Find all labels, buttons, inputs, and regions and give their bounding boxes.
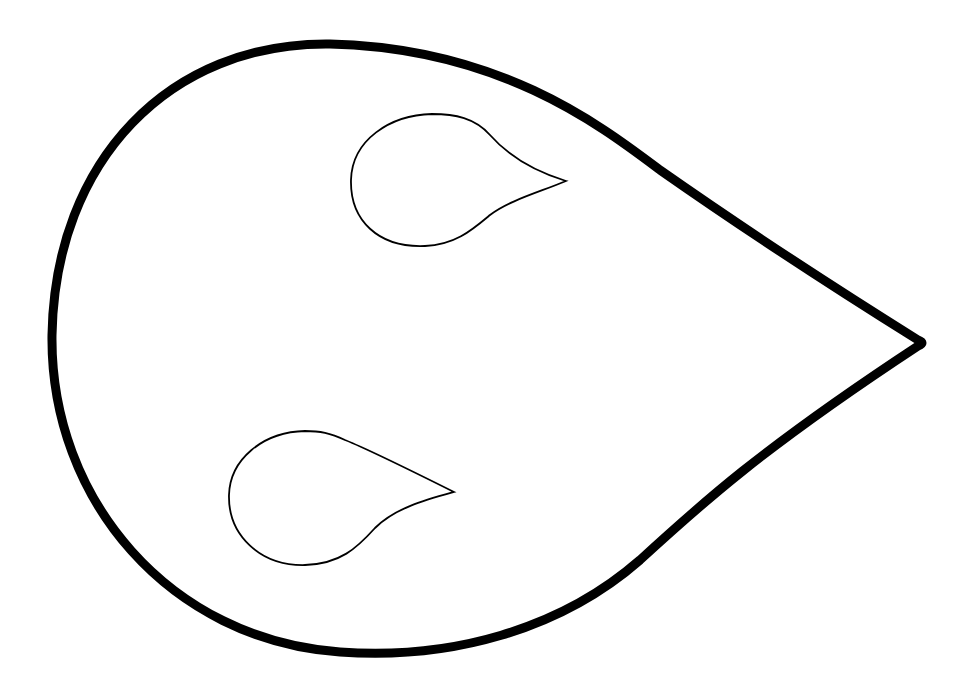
background [0, 0, 972, 691]
teardrop-illustration [0, 0, 972, 691]
drawing-canvas [0, 0, 972, 691]
